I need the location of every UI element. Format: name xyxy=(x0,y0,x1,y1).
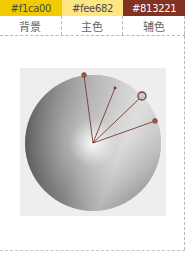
label-background: 背景 xyxy=(0,16,62,35)
swatch-primary-hex: #fee682 xyxy=(72,3,113,14)
swatch-background-hex: #f1ca00 xyxy=(11,3,52,14)
wheel-handle[interactable] xyxy=(82,73,87,78)
label-secondary: 辅色 xyxy=(123,16,185,35)
selected-handle[interactable] xyxy=(138,92,146,100)
wheel-handle[interactable] xyxy=(114,87,117,90)
swatch-secondary-hex: #813221 xyxy=(132,3,176,14)
swatch-label-row: 背景 主色 辅色 xyxy=(0,16,185,36)
swatch-primary[interactable]: #fee682 xyxy=(62,0,124,16)
color-wheel[interactable] xyxy=(20,68,166,216)
panel-divider-bottom xyxy=(0,250,185,251)
swatch-background[interactable]: #f1ca00 xyxy=(0,0,62,16)
wheel-handle[interactable] xyxy=(153,119,158,124)
color-swatch-row: #f1ca00 #fee682 #813221 xyxy=(0,0,185,16)
swatch-secondary[interactable]: #813221 xyxy=(123,0,185,16)
label-primary: 主色 xyxy=(62,16,124,35)
panel-divider xyxy=(184,16,185,250)
